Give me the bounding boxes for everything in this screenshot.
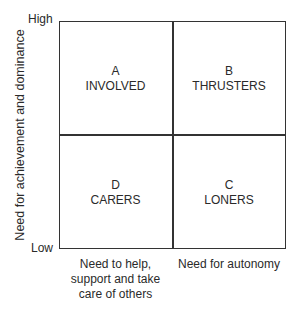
y-axis-low-label: Low — [31, 241, 53, 255]
quadrant-involved: A INVOLVED — [59, 64, 172, 94]
quadrant-loners: C LONERS — [172, 178, 286, 208]
x-axis-right-label: Need for autonomy — [172, 257, 286, 272]
quadrant-carers: D CARERS — [59, 178, 172, 208]
quadrant-letter: C — [172, 178, 286, 193]
quadrant-name: LONERS — [172, 193, 286, 208]
x-axis-left-label: Need to help, support and take care of o… — [59, 257, 172, 302]
y-axis-title: Need for achievement and dominance — [13, 29, 27, 240]
quadrant-letter: D — [59, 178, 172, 193]
quadrant-name: INVOLVED — [59, 79, 172, 94]
y-axis-high-label: High — [28, 12, 53, 26]
quadrant-letter: B — [172, 64, 286, 79]
horizontal-divider — [59, 134, 286, 136]
quadrant-name: CARERS — [59, 193, 172, 208]
quadrant-thrusters: B THRUSTERS — [172, 64, 286, 94]
quadrant-name: THRUSTERS — [172, 79, 286, 94]
quadrant-letter: A — [59, 64, 172, 79]
